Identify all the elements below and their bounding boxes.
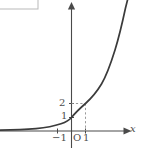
graph-canvas [0,0,141,150]
x-tick-label-neg-one: −1 [52,133,67,143]
figure-label-box [0,0,38,9]
exponential-graph-figure: x −1 O 1 2 1 [0,0,141,150]
y-axis-arrowhead [68,2,75,10]
y-tick-label-one: 1 [61,111,67,121]
origin-label: O [73,133,81,143]
x-tick-label-one: 1 [83,133,89,143]
x-axis-label: x [130,124,136,134]
y-tick-label-two: 2 [59,98,65,108]
